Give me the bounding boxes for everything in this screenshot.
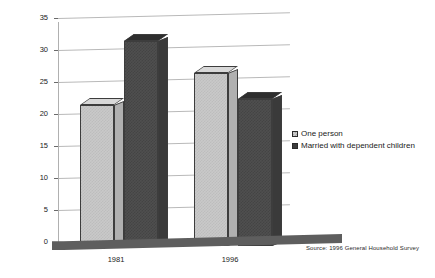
legend-swatch-dark-gray-square xyxy=(292,143,298,149)
y-tick-mark-25 xyxy=(54,82,58,83)
bar-chart: 35 30 25 20 15 10 5 0 1981 1996 One pers… xyxy=(0,0,435,278)
y-tick-mark-15 xyxy=(54,146,58,147)
x-axis-label-1996: 1996 xyxy=(200,255,260,264)
bar-side-face xyxy=(114,101,124,246)
bar-front-face xyxy=(80,105,114,246)
y-tick-mark-35 xyxy=(54,18,58,19)
legend-item-married-with-dependent-children: Married with dependent children xyxy=(292,140,432,151)
bar-front-face xyxy=(124,41,158,246)
legend-label-married-with-dependent-children: Married with dependent children xyxy=(301,141,415,150)
bar-1981-one-person xyxy=(80,105,114,246)
y-tick-label-10: 10 xyxy=(22,174,48,182)
bar-side-face xyxy=(272,95,282,246)
y-tick-label-35: 35 xyxy=(22,14,48,22)
bar-front-face xyxy=(194,73,228,246)
source-note: Source: 1996 General Household Survey xyxy=(306,245,419,251)
y-tick-label-0: 0 xyxy=(22,238,48,246)
y-tick-label-5: 5 xyxy=(22,206,48,214)
bar-1996-one-person xyxy=(194,73,228,246)
bar-side-face xyxy=(158,37,168,246)
y-tick-label-15: 15 xyxy=(22,142,48,150)
gridline-25 xyxy=(58,76,290,83)
legend-swatch-light-gray-square xyxy=(292,131,298,137)
y-tick-mark-30 xyxy=(54,50,58,51)
y-tick-mark-5 xyxy=(54,210,58,211)
y-tick-label-25: 25 xyxy=(22,78,48,86)
legend: One person Married with dependent childr… xyxy=(292,128,432,152)
bar-1981-married-with-dependent-children xyxy=(124,41,158,246)
bar-side-face xyxy=(228,69,238,246)
gridline-35 xyxy=(58,12,290,19)
y-tick-mark-10 xyxy=(54,178,58,179)
y-tick-mark-20 xyxy=(54,114,58,115)
legend-label-one-person: One person xyxy=(301,129,343,138)
y-axis-line xyxy=(58,22,59,246)
chart-floor-surface xyxy=(52,234,342,250)
bar-1996-married-with-dependent-children xyxy=(238,99,272,246)
y-tick-label-20: 20 xyxy=(22,110,48,118)
chart-floor xyxy=(52,234,342,250)
bar-front-face xyxy=(238,99,272,246)
y-tick-label-30: 30 xyxy=(22,46,48,54)
gridline-30 xyxy=(58,44,290,51)
x-axis-label-1981: 1981 xyxy=(86,255,146,264)
plot-area xyxy=(58,18,290,246)
legend-item-one-person: One person xyxy=(292,128,432,139)
